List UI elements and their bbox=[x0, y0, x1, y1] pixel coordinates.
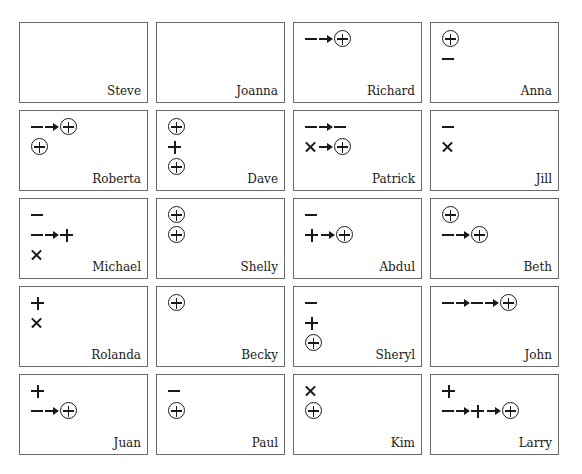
card-name-label: Dave bbox=[247, 172, 278, 186]
minus-icon bbox=[304, 205, 318, 225]
card-john: John bbox=[430, 286, 559, 367]
minus-icon bbox=[441, 293, 455, 313]
card-name-label: John bbox=[525, 348, 553, 362]
circled-plus-icon bbox=[167, 117, 187, 137]
arrow-icon bbox=[318, 29, 333, 49]
card-name-label: Rolanda bbox=[91, 348, 141, 362]
symbol-line bbox=[167, 205, 187, 225]
card-beth: Beth bbox=[430, 198, 559, 279]
card-name-label: Michael bbox=[92, 260, 141, 274]
card-sheryl: Sheryl bbox=[293, 286, 422, 367]
symbol-line bbox=[30, 205, 75, 225]
symbol-line bbox=[304, 381, 324, 401]
minus-icon bbox=[304, 117, 318, 137]
symbol-lines bbox=[441, 117, 455, 157]
card-name-label: Shelly bbox=[240, 260, 278, 274]
symbol-line bbox=[30, 401, 79, 421]
symbol-line bbox=[441, 205, 490, 225]
symbol-lines bbox=[30, 381, 79, 421]
card-name-label: Beth bbox=[524, 260, 552, 274]
card-steve: Steve bbox=[19, 22, 148, 103]
symbol-line bbox=[167, 117, 187, 137]
symbol-line bbox=[304, 29, 353, 49]
times-icon bbox=[30, 245, 44, 265]
times-icon bbox=[304, 381, 318, 401]
card-name-label: Abdul bbox=[379, 260, 415, 274]
times-icon bbox=[304, 137, 318, 157]
card-anna: Anna bbox=[430, 22, 559, 103]
card-becky: Becky bbox=[156, 286, 285, 367]
minus-icon bbox=[30, 117, 44, 137]
circled-plus-icon bbox=[167, 205, 187, 225]
symbol-line bbox=[441, 293, 519, 313]
circled-plus-icon bbox=[59, 401, 79, 421]
plus-icon bbox=[167, 137, 183, 157]
minus-icon bbox=[441, 117, 455, 137]
minus-icon bbox=[30, 205, 44, 225]
minus-icon bbox=[333, 117, 347, 137]
plus-icon bbox=[30, 293, 46, 313]
circled-plus-icon bbox=[167, 293, 187, 313]
card-larry: Larry bbox=[430, 374, 559, 455]
symbol-lines bbox=[441, 205, 490, 245]
card-rolanda: Rolanda bbox=[19, 286, 148, 367]
symbol-line bbox=[30, 293, 46, 313]
card-name-label: Patrick bbox=[372, 172, 415, 186]
card-name-label: Jill bbox=[536, 172, 552, 186]
minus-icon bbox=[441, 225, 455, 245]
card-dave: Dave bbox=[156, 110, 285, 191]
card-name-label: Kim bbox=[391, 436, 415, 450]
circled-plus-icon bbox=[167, 225, 187, 245]
symbol-line bbox=[167, 401, 187, 421]
symbol-line bbox=[30, 137, 79, 157]
symbol-line bbox=[30, 313, 46, 333]
minus-icon bbox=[167, 381, 181, 401]
symbol-line bbox=[304, 205, 355, 225]
plus-icon bbox=[470, 401, 486, 421]
symbol-line bbox=[304, 401, 324, 421]
circled-plus-icon bbox=[441, 29, 461, 49]
symbol-line bbox=[30, 225, 75, 245]
card-name-label: Becky bbox=[241, 348, 278, 362]
card-name-label: Roberta bbox=[92, 172, 141, 186]
symbol-lines bbox=[441, 293, 519, 313]
minus-icon bbox=[470, 293, 484, 313]
arrow-icon bbox=[318, 137, 333, 157]
symbol-lines bbox=[167, 381, 187, 421]
symbol-line bbox=[167, 381, 187, 401]
minus-icon bbox=[441, 49, 455, 69]
arrow-icon bbox=[455, 293, 470, 313]
times-icon bbox=[441, 137, 455, 157]
symbol-line bbox=[30, 117, 79, 137]
circled-plus-icon bbox=[333, 137, 353, 157]
plus-icon bbox=[441, 381, 457, 401]
symbol-lines bbox=[30, 117, 79, 157]
symbol-line bbox=[304, 333, 324, 353]
circled-plus-icon bbox=[335, 225, 355, 245]
symbol-line bbox=[30, 245, 75, 265]
card-joanna: Joanna bbox=[156, 22, 285, 103]
symbol-lines bbox=[30, 293, 46, 333]
symbol-line bbox=[441, 225, 490, 245]
arrow-icon bbox=[44, 225, 59, 245]
symbol-lines bbox=[304, 205, 355, 245]
minus-icon bbox=[30, 225, 44, 245]
times-icon bbox=[30, 313, 44, 333]
symbol-lines bbox=[304, 29, 353, 49]
plus-icon bbox=[30, 381, 46, 401]
circled-plus-icon bbox=[501, 401, 521, 421]
arrow-icon bbox=[320, 225, 335, 245]
arrow-icon bbox=[484, 293, 499, 313]
card-kim: Kim bbox=[293, 374, 422, 455]
card-michael: Michael bbox=[19, 198, 148, 279]
minus-icon bbox=[441, 401, 455, 421]
symbol-line bbox=[441, 29, 461, 49]
circled-plus-icon bbox=[59, 117, 79, 137]
minus-icon bbox=[30, 401, 44, 421]
card-name-label: Joanna bbox=[236, 84, 278, 98]
symbol-line bbox=[167, 293, 187, 313]
plus-icon bbox=[59, 225, 75, 245]
plus-icon bbox=[304, 313, 320, 333]
symbol-line bbox=[167, 225, 187, 245]
card-abdul: Abdul bbox=[293, 198, 422, 279]
